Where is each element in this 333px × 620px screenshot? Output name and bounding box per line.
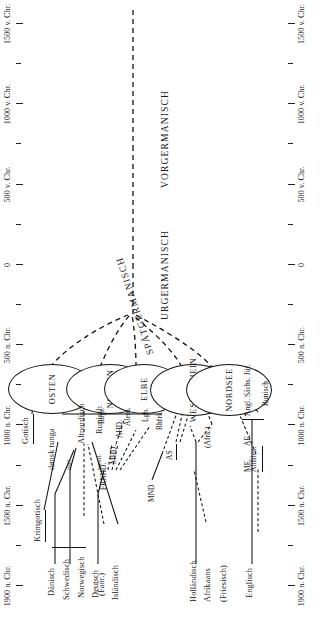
diagram-stage: OSTEN NORDEN ELBE WESER-RHEIN NORDSEE SP… xyxy=(0,0,333,620)
axis-tick xyxy=(288,505,295,506)
axis-tick-label: 1900 n. Chr. xyxy=(297,566,306,607)
axis-tick-label: 500 v. Chr. xyxy=(297,167,306,203)
time-axis-bottom: 1900 n. Chr.1500 n. Chr.1000 n. Chr.500 … xyxy=(0,0,333,620)
axis-tick xyxy=(288,184,295,185)
axis-tick-label: 1500 n. Chr. xyxy=(297,485,306,526)
axis-tick xyxy=(288,224,293,225)
rotated-diagram-wrapper: OSTEN NORDEN ELBE WESER-RHEIN NORDSEE SP… xyxy=(0,0,333,620)
axis-tick xyxy=(288,585,295,586)
axis-tick xyxy=(288,23,295,24)
axis-tick-label: 1000 n. Chr. xyxy=(297,405,306,446)
axis-tick xyxy=(288,424,295,425)
axis-tick xyxy=(288,545,293,546)
axis-tick-label: 500 n. Chr. xyxy=(297,327,306,363)
axis-tick xyxy=(288,344,295,345)
axis-tick-label: 1000 v. Chr. xyxy=(297,84,306,124)
axis-tick xyxy=(288,465,293,466)
axis-tick xyxy=(288,63,293,64)
axis-tick xyxy=(288,143,293,144)
axis-tick xyxy=(288,304,293,305)
axis-tick xyxy=(288,103,295,104)
diagram-canvas: OSTEN NORDEN ELBE WESER-RHEIN NORDSEE SP… xyxy=(0,0,333,620)
axis-tick-label: 1500 v. Chr. xyxy=(297,4,306,44)
axis-tick-label: 0 xyxy=(297,263,306,267)
axis-tick xyxy=(288,264,295,265)
axis-tick xyxy=(288,384,293,385)
